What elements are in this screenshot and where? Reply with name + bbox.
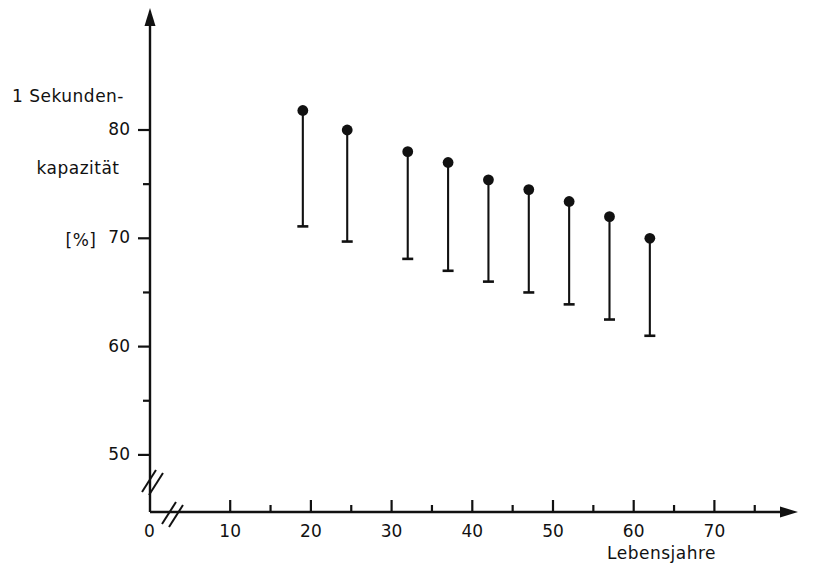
- x-tick-label: 60: [614, 521, 654, 541]
- data-point-marker: [443, 157, 454, 168]
- y-tick-label: 80: [90, 119, 130, 139]
- chart-figure: 1 Sekunden- kapazität [%] Lebensjahre 50…: [0, 0, 818, 581]
- x-tick-label: 50: [533, 521, 573, 541]
- y-tick-label: 70: [90, 227, 130, 247]
- axis-break-marks: [142, 470, 183, 527]
- data-point-marker: [402, 146, 413, 157]
- x-tick-label: 40: [452, 521, 492, 541]
- axes: [145, 8, 799, 518]
- data-point-marker: [297, 105, 308, 116]
- y-axis-ticks: [138, 130, 150, 455]
- data-point-marker: [604, 211, 615, 222]
- data-point-marker: [483, 174, 494, 185]
- data-point-marker: [644, 233, 655, 244]
- x-tick-label: 10: [210, 521, 250, 541]
- y-axis-arrowhead: [145, 8, 156, 26]
- x-axis-ticks: [230, 500, 755, 512]
- y-tick-label: 60: [90, 336, 130, 356]
- x-tick-label: 70: [694, 521, 734, 541]
- data-point-marker: [564, 196, 575, 207]
- x-tick-label: 20: [291, 521, 331, 541]
- x-tick-label: 30: [372, 521, 412, 541]
- y-tick-label: 50: [90, 444, 130, 464]
- data-point-marker: [342, 125, 353, 136]
- data-series: [297, 105, 655, 336]
- x-tick-label: 0: [130, 521, 170, 541]
- plot-area: [0, 0, 818, 581]
- x-axis-arrowhead: [780, 507, 798, 518]
- data-point-marker: [523, 184, 534, 195]
